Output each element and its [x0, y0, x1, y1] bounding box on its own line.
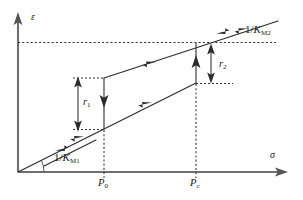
slope-upper-symbol: K: [254, 23, 261, 35]
curves-group: [18, 21, 278, 172]
slope-upper-label: 1/KM2: [245, 24, 271, 35]
point-upper-subscript: c: [196, 182, 199, 190]
r1-measure-group: [74, 77, 82, 132]
r2-measure-group: [207, 44, 215, 84]
slope-lower-prefix: 1/: [54, 151, 63, 163]
slope-lower-symbol: K: [63, 151, 70, 163]
x-axis-label: σ: [270, 150, 275, 160]
direction-arrowheads-group: [55, 28, 248, 151]
upper-line-arrow-left: [216, 28, 229, 34]
range-one-subscript: 1: [87, 101, 91, 109]
range-label-r1: r1: [83, 97, 91, 108]
range-two-subscript: 2: [223, 63, 227, 71]
y-axis-label: ε: [31, 12, 35, 22]
stress-strain-figure: ε σ 1/KM1 1/KM2 P0 Pc r1 r2: [0, 0, 303, 200]
lower-line-arrow-right-a: [71, 136, 85, 142]
point-lower-subscript: 0: [104, 182, 108, 190]
slope-upper-prefix: 1/: [245, 23, 254, 35]
slope-lower-label: 1/KM1: [54, 152, 80, 163]
slope-upper-subscript: M2: [261, 29, 271, 37]
slope-lower-subscript: M1: [70, 157, 80, 165]
range-label-r2: r2: [219, 59, 227, 70]
point-label-p0: P0: [98, 178, 108, 189]
lower-line-arrow-right-b: [139, 102, 153, 108]
point-label-pc: Pc: [190, 178, 200, 189]
